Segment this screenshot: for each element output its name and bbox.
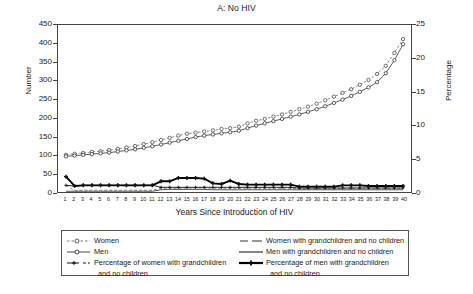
y-tick-label-right: 0 [416, 188, 440, 197]
legend-item-label: Men with grandchildren and no children [266, 246, 393, 257]
legend-item-label: Women [94, 235, 119, 246]
y-tick-label-right: 15 [416, 87, 440, 96]
legend-item[interactable]: Men with grandchildren and no children [238, 246, 408, 257]
legend-item[interactable]: Men [66, 246, 236, 257]
legend-key-solid-thin-icon [238, 246, 264, 257]
y-tick-label-left: 0 [18, 188, 52, 197]
legend-key-dashed-thin-icon [238, 235, 264, 246]
y-tick-label-right: 25 [416, 19, 440, 28]
y-tick-label-left: 150 [18, 132, 52, 141]
y-tick-label-left: 300 [18, 75, 52, 84]
legend-item[interactable]: Percentage of women with grandchildrenan… [66, 257, 236, 279]
series-0 [64, 37, 404, 156]
y-tick-mark-right [412, 58, 416, 59]
legend-item[interactable]: Women [66, 235, 236, 246]
legend-key-dashed-open-circle-icon [66, 235, 92, 246]
y-tick-mark-right [412, 92, 416, 93]
legend-item-label: Percentage of women with grandchildrenan… [94, 257, 226, 279]
legend-item-label-line2: and no children [94, 268, 226, 279]
legend-key-solid-open-circle-icon [66, 246, 92, 257]
y-tick-label-right: 5 [416, 154, 440, 163]
x-tick-label: 40 [397, 196, 411, 202]
y-tick-label-left: 400 [18, 38, 52, 47]
y-tick-mark-left [53, 193, 57, 194]
y-tick-label-left: 350 [18, 57, 52, 66]
y-tick-label-left: 100 [18, 150, 52, 159]
y-tick-label-right: 20 [416, 53, 440, 62]
legend: WomenMenPercentage of women with grandch… [61, 230, 409, 276]
plot-area [57, 24, 412, 193]
y-tick-label-left: 200 [18, 113, 52, 122]
y-tick-label-left: 50 [18, 169, 52, 178]
y-tick-label-left: 450 [18, 19, 52, 28]
legend-column-right: Women with grandchildren and no children… [236, 231, 408, 275]
y-axis-label-right: Percentage [444, 51, 453, 111]
legend-item[interactable]: Women with grandchildren and no children [238, 235, 408, 246]
figure-panel: A: No HIV Number Percentage 050100150200… [0, 0, 473, 294]
x-axis-label: Years Since Introduction of HIV [57, 207, 412, 217]
legend-key-bold-plus-icon [238, 257, 264, 268]
legend-key-thin-plus-icon [66, 257, 92, 268]
x-axis-ticks: 1234567891011121314151617181920212223242… [57, 196, 412, 206]
legend-item[interactable]: Percentage of men with grandchildrenand … [238, 257, 408, 279]
legend-item-label: Men [94, 246, 108, 257]
y-tick-mark-right [412, 125, 416, 126]
series-canvas [58, 25, 411, 192]
series-5 [64, 175, 405, 189]
series-1 [64, 43, 404, 158]
legend-item-label: Percentage of men with grandchildrenand … [266, 257, 389, 279]
legend-column-left: WomenMenPercentage of women with grandch… [62, 231, 236, 275]
y-tick-mark-right [412, 159, 416, 160]
legend-item-label-line2: and no children [266, 268, 389, 279]
y-tick-label-right: 10 [416, 120, 440, 129]
y-tick-mark-right [412, 24, 416, 25]
y-tick-mark-right [412, 193, 416, 194]
chart-title: A: No HIV [0, 3, 473, 13]
legend-item-label: Women with grandchildren and no children [266, 235, 404, 246]
y-tick-label-left: 250 [18, 94, 52, 103]
